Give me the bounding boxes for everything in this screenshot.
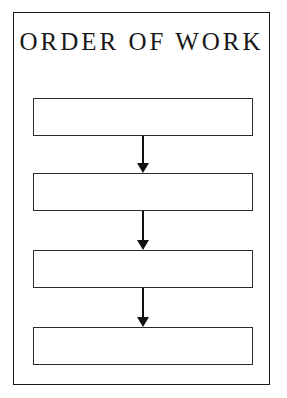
arrow-head: [137, 240, 149, 250]
arrow-down-icon-3: [137, 288, 150, 327]
arrow-shaft: [142, 288, 144, 317]
process-box-1-label: [34, 99, 252, 135]
process-box-4-label: [34, 328, 252, 364]
process-box-1[interactable]: [33, 98, 253, 136]
process-box-2[interactable]: [33, 173, 253, 211]
arrow-head: [137, 317, 149, 327]
flowchart: [0, 0, 287, 398]
arrow-down-icon-1: [137, 136, 150, 173]
arrow-shaft: [142, 136, 144, 163]
process-box-3[interactable]: [33, 250, 253, 288]
process-box-2-label: [34, 174, 252, 210]
arrow-head: [137, 163, 149, 173]
process-box-4[interactable]: [33, 327, 253, 365]
arrow-shaft: [142, 211, 144, 240]
process-box-3-label: [34, 251, 252, 287]
arrow-down-icon-2: [137, 211, 150, 250]
page-canvas: ORDER OF WORK: [0, 0, 287, 398]
